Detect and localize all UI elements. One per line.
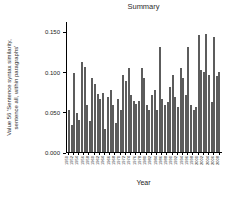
x-tick-mark xyxy=(156,153,157,155)
x-tick-mark xyxy=(213,153,214,155)
x-tick-label: 1982 xyxy=(148,156,152,165)
x-tick-mark xyxy=(208,153,209,155)
y-tick-label: 0.150 xyxy=(45,29,60,35)
figure: Summary Value 56 'Sentence syntax simila… xyxy=(0,0,234,198)
x-tick-mark xyxy=(88,153,89,155)
x-tick-mark xyxy=(130,153,131,155)
x-tick-mark xyxy=(104,153,105,155)
x-tick-label: 1992 xyxy=(174,156,178,165)
x-tick-mark xyxy=(187,153,188,155)
x-tick-label: 1974 xyxy=(127,156,131,165)
y-axis-ticks: 0.0000.0500.1000.150 xyxy=(0,22,66,153)
x-tick-mark xyxy=(120,153,121,155)
chart-title: Summary xyxy=(66,2,221,11)
x-tick-label: 1964 xyxy=(101,156,105,165)
x-tick-mark xyxy=(151,153,152,155)
x-tick-mark xyxy=(73,153,74,155)
x-tick-mark xyxy=(166,153,167,155)
x-tick-label: 2004 xyxy=(206,156,210,165)
y-tick-label: 0.000 xyxy=(45,150,60,156)
x-tick-mark xyxy=(161,153,162,155)
bars xyxy=(68,22,221,152)
x-tick-mark xyxy=(192,153,193,155)
x-axis-ticks: 1950195219541956195819601962196419661968… xyxy=(67,153,222,179)
plot-area xyxy=(66,22,222,153)
x-tick-mark xyxy=(203,153,204,155)
x-tick-mark xyxy=(125,153,126,155)
x-tick-label: 1956 xyxy=(81,156,85,165)
x-tick-label: 2002 xyxy=(200,156,204,165)
x-tick-mark xyxy=(198,153,199,155)
y-tick-label: 0.100 xyxy=(45,70,60,76)
x-tick-mark xyxy=(68,153,69,155)
y-tick-label: 0.050 xyxy=(45,110,60,116)
x-tick-mark xyxy=(94,153,95,155)
x-tick-mark xyxy=(182,153,183,155)
x-axis-label: Year xyxy=(66,179,221,186)
x-tick-label: 1994 xyxy=(180,156,184,165)
x-tick-mark xyxy=(83,153,84,155)
x-tick-mark xyxy=(140,153,141,155)
x-tick-mark xyxy=(135,153,136,155)
x-tick-label: 1954 xyxy=(75,156,79,165)
x-tick-mark xyxy=(114,153,115,155)
x-tick-label: 1984 xyxy=(154,156,158,165)
x-tick-mark xyxy=(78,153,79,155)
bar-2008 xyxy=(218,72,220,153)
x-tick-mark xyxy=(146,153,147,155)
x-tick-mark xyxy=(219,153,220,155)
x-tick-mark xyxy=(99,153,100,155)
x-tick-mark xyxy=(177,153,178,155)
x-tick-mark xyxy=(109,153,110,155)
x-tick-label: 2008 xyxy=(216,156,220,165)
x-tick-mark xyxy=(172,153,173,155)
